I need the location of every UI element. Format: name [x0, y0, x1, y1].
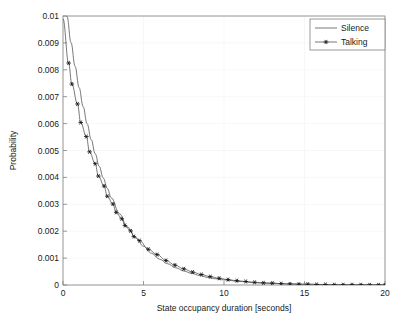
y-tick-label: 0.002: [38, 226, 60, 236]
x-axis-title: State occupancy duration [seconds]: [157, 303, 292, 313]
data-point-marker: [297, 282, 302, 286]
data-point-marker: [84, 135, 89, 139]
data-point-marker: [367, 283, 372, 287]
y-tick-label: 0.007: [38, 92, 60, 102]
data-point-marker: [70, 82, 75, 86]
data-point-marker: [332, 283, 337, 287]
data-point-marker: [75, 102, 80, 106]
data-point-marker: [341, 283, 346, 287]
data-point-marker: [132, 235, 137, 239]
y-tick-label: 0.009: [38, 38, 60, 48]
data-point-marker: [78, 121, 83, 125]
data-point-marker: [261, 281, 266, 285]
legend[interactable]: SilenceTalking: [310, 19, 385, 50]
data-point-marker: [226, 278, 231, 282]
legend-label-silence: Silence: [341, 23, 369, 33]
series-talking: [63, 19, 387, 287]
data-point-marker: [270, 281, 275, 285]
chart-svg: 05101520 00.0010.0020.0030.0040.0050.006…: [0, 0, 411, 328]
y-tick-label: 0: [54, 280, 59, 290]
x-tick-label: 5: [141, 288, 146, 298]
x-tick-label: 0: [61, 288, 66, 298]
data-point-marker: [314, 282, 319, 286]
y-tick-label: 0.005: [38, 146, 60, 156]
gridlines: [63, 16, 385, 285]
y-tick-label: 0.004: [38, 172, 60, 182]
y-tick-label: 0.008: [38, 65, 60, 75]
y-tick-label: 0.01: [42, 11, 59, 21]
data-point-marker: [252, 280, 257, 284]
y-axis-title: Probability: [8, 130, 18, 170]
data-point-marker: [376, 283, 381, 287]
data-point-marker: [235, 279, 240, 283]
data-point-marker: [305, 282, 310, 286]
x-tick-label: 10: [219, 288, 229, 298]
data-point-marker: [181, 267, 186, 271]
x-tick-label: 15: [300, 288, 310, 298]
data-point-marker: [66, 61, 71, 65]
figure-canvas: 05101520 00.0010.0020.0030.0040.0050.006…: [0, 0, 411, 328]
x-tick-label: 20: [380, 288, 390, 298]
legend-label-talking: Talking: [341, 37, 368, 47]
x-axis-ticks: 05101520: [61, 281, 390, 298]
data-point-marker: [243, 280, 248, 284]
data-point-marker: [359, 283, 364, 287]
y-tick-label: 0.006: [38, 119, 60, 129]
data-point-marker: [323, 282, 328, 286]
y-tick-label: 0.001: [38, 253, 60, 263]
data-point-marker: [350, 283, 355, 287]
y-tick-label: 0.003: [38, 199, 60, 209]
